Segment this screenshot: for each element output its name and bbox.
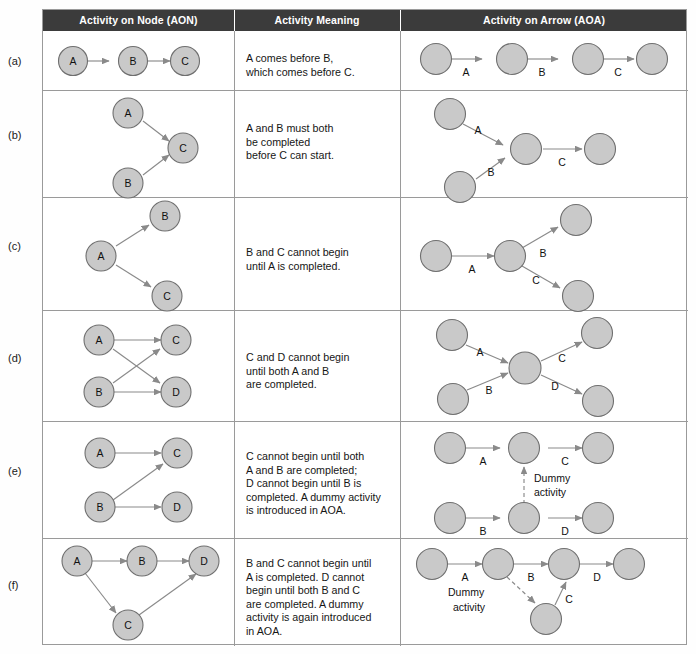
aoa-diagram-b: A B C <box>400 91 688 197</box>
aon-diagram-f: A B D C <box>43 539 234 645</box>
aoa-arc-label-c-1: A <box>468 263 475 275</box>
aoa-arc-label-e-4: D <box>561 525 569 537</box>
aoa-arc-label-b-2: B <box>487 166 494 178</box>
aoa-arc-label-d-4: D <box>551 380 559 392</box>
comparison-table: Activity on Node (AON) Activity Meaning … <box>42 9 687 645</box>
aon-node-b-2: B <box>124 177 131 189</box>
aoa-diagram-f: A B C D Dummy activity <box>400 539 688 645</box>
meaning-text-d: C and D cannot begin until both A and B … <box>246 351 396 392</box>
aon-diagram-c: A B C <box>43 198 234 310</box>
row-label-c: (c) <box>8 240 38 252</box>
aoa-arc-label-b-1: A <box>474 124 481 136</box>
row-label-f: (f) <box>8 579 38 591</box>
aon-node-f-4: D <box>200 555 208 567</box>
dummy-activity-label-f-line2: activity <box>453 601 486 613</box>
aon-node-f-2: B <box>138 555 145 567</box>
aon-node-e-2: B <box>96 501 103 513</box>
aon-node-d-4: D <box>172 386 180 398</box>
aon-node-d-2: B <box>95 386 102 398</box>
aon-node-a-3: C <box>181 55 189 67</box>
aon-node-e-4: D <box>173 501 181 513</box>
dummy-activity-label-e-line2: activity <box>534 486 567 498</box>
aoa-arc-label-a-1: A <box>462 66 469 78</box>
aon-diagram-a: A B C <box>43 31 234 90</box>
meaning-text-e: C cannot begin until both A and B are co… <box>246 450 398 518</box>
aoa-arc-label-e-3: C <box>561 455 569 467</box>
meaning-text-c: B and C cannot begin until A is complete… <box>246 246 396 273</box>
aoa-arc-label-f-4: D <box>593 571 601 583</box>
meaning-text-a: A comes before B, which comes before C. <box>246 52 396 79</box>
aoa-arc-label-c-3: C <box>532 274 540 286</box>
row-label-b: (b) <box>8 129 38 141</box>
aoa-arc-label-e-1: A <box>479 455 486 467</box>
dummy-activity-label-e-line1: Dummy <box>534 472 571 484</box>
row-label-a: (a) <box>8 55 38 67</box>
aoa-arc-label-b-3: C <box>558 156 566 168</box>
aoa-arc-label-f-2: B <box>527 571 534 583</box>
aon-diagram-d: A B C D <box>43 311 234 421</box>
aoa-arc-label-c-2: B <box>539 247 546 259</box>
column-header-aoa: Activity on Arrow (AOA) <box>400 10 688 31</box>
row-label-d: (d) <box>8 352 38 364</box>
meaning-text-f: B and C cannot begin until A is complete… <box>246 557 398 639</box>
aoa-arc-label-d-1: A <box>476 346 483 358</box>
aon-node-c-2: B <box>161 210 168 222</box>
aon-node-b-1: A <box>124 107 131 119</box>
aon-node-e-3: C <box>173 447 181 459</box>
aon-diagram-b: A B C <box>43 91 234 197</box>
aoa-arc-label-f-1: A <box>461 571 468 583</box>
column-header-meaning: Activity Meaning <box>234 10 400 31</box>
aoa-diagram-d: A B C D <box>400 311 688 421</box>
aon-node-a-2: B <box>129 55 136 67</box>
header-divider-1 <box>234 10 235 31</box>
meaning-text-b: A and B must both be completed before C … <box>246 122 396 163</box>
aon-diagram-e: A B C D <box>43 422 234 538</box>
aoa-arc-label-d-2: B <box>485 384 492 396</box>
column-header-aon: Activity on Node (AON) <box>43 10 234 31</box>
aoa-arc-label-f-3: C <box>565 593 573 605</box>
aon-node-f-1: A <box>73 555 80 567</box>
dummy-activity-label-f-line1: Dummy <box>448 586 485 598</box>
figure-root: (a) (b) (c) (d) (e) (f) Activity on Node… <box>0 0 696 654</box>
aon-node-c-1: A <box>97 250 104 262</box>
aoa-diagram-c: A B C <box>400 198 688 310</box>
aoa-diagram-e: A B C D Dummy activity <box>400 422 688 538</box>
aon-node-e-1: A <box>96 447 103 459</box>
aon-node-a-1: A <box>69 55 76 67</box>
aon-node-c-3: C <box>163 290 171 302</box>
aoa-arc-label-e-2: B <box>479 525 486 537</box>
aoa-arc-label-a-2: B <box>538 66 545 78</box>
aon-node-f-3: C <box>124 619 132 631</box>
aon-node-d-3: C <box>172 334 180 346</box>
header-divider-2 <box>400 10 401 31</box>
aon-node-d-1: A <box>95 334 102 346</box>
aoa-arc-label-d-3: C <box>558 352 566 364</box>
column-divider-1 <box>234 31 235 646</box>
aoa-arc-label-a-3: C <box>614 66 622 78</box>
aon-node-b-3: C <box>179 142 187 154</box>
row-label-e: (e) <box>8 465 38 477</box>
aoa-diagram-a: A B C <box>400 31 688 90</box>
